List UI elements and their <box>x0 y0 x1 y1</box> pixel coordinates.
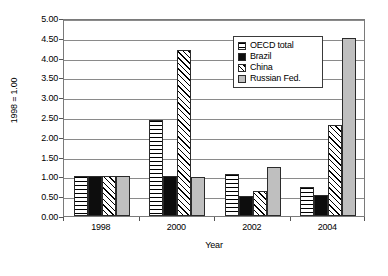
bar-chart: 1998 = 1.00 0.000.501.001.502.002.503.00… <box>0 0 388 276</box>
gridline <box>64 139 364 140</box>
x-axis-title: Year <box>63 240 365 250</box>
bar <box>300 187 314 216</box>
legend-swatch-icon <box>238 75 246 83</box>
bar <box>149 120 163 216</box>
bar <box>74 176 88 216</box>
x-axis-tick-label: 2000 <box>167 222 186 232</box>
x-axis-tick-mark <box>63 217 64 221</box>
x-axis-tick-labels: 1998200020022004 <box>63 222 365 234</box>
y-axis-tick-label: 5.00 <box>41 15 58 24</box>
x-axis-tick-mark <box>139 217 140 221</box>
legend-label: OECD total <box>250 41 294 50</box>
chart-legend: OECD totalBrazilChinaRussian Fed. <box>233 36 323 88</box>
y-axis-tick-label: 3.00 <box>41 94 58 103</box>
bar <box>314 195 328 216</box>
bar <box>239 196 253 216</box>
y-axis-tick-label: 3.50 <box>41 74 58 83</box>
y-axis-tick-label: 2.50 <box>41 114 58 123</box>
legend-item: China <box>238 62 318 73</box>
legend-label: Russian Fed. <box>250 74 301 83</box>
bar <box>88 176 102 216</box>
legend-item: Brazil <box>238 51 318 62</box>
bar <box>253 191 267 216</box>
x-axis-tick-mark <box>364 217 365 221</box>
bar <box>328 125 342 216</box>
bar <box>225 174 239 216</box>
x-axis-tick-mark <box>214 217 215 221</box>
legend-item: Russian Fed. <box>238 73 318 84</box>
y-axis-tick-label: 1.00 <box>41 173 58 182</box>
legend-label: China <box>250 63 273 72</box>
legend-swatch-icon <box>238 53 246 61</box>
y-axis-tick-label: 0.00 <box>41 213 58 222</box>
bar <box>163 176 177 216</box>
bar <box>191 177 205 216</box>
x-axis-tick-mark <box>290 217 291 221</box>
legend-swatch-icon <box>238 42 246 50</box>
gridline <box>64 119 364 120</box>
bar <box>102 176 116 216</box>
gridline <box>64 99 364 100</box>
bar <box>177 50 191 216</box>
x-axis-tick-label: 2002 <box>242 222 261 232</box>
bar <box>342 38 356 216</box>
y-axis-tick-label: 2.00 <box>41 133 58 142</box>
y-axis-tick-labels: 0.000.501.001.502.002.503.003.504.004.50… <box>18 19 58 217</box>
y-axis-tick-label: 4.00 <box>41 54 58 63</box>
x-axis-tick-label: 1998 <box>91 222 110 232</box>
y-axis-tick-label: 1.50 <box>41 153 58 162</box>
legend-item: OECD total <box>238 40 318 51</box>
x-axis-tick-label: 2004 <box>318 222 337 232</box>
legend-swatch-icon <box>238 64 246 72</box>
gridline <box>64 20 364 21</box>
y-axis-tick-label: 0.50 <box>41 193 58 202</box>
bar <box>116 176 130 216</box>
gridline <box>64 159 364 160</box>
bar <box>267 167 281 216</box>
y-axis-tick-label: 4.50 <box>41 34 58 43</box>
legend-label: Brazil <box>250 52 271 61</box>
